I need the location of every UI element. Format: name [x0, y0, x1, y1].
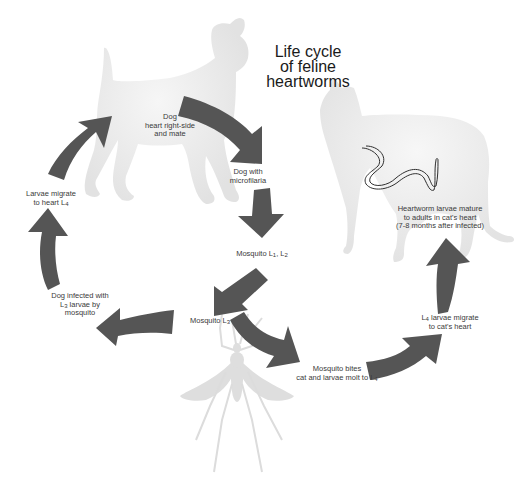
label-line: cat and larvae molt to L4	[282, 374, 392, 383]
arrow-microfilaria-to-mosquito-l1l2	[238, 188, 284, 238]
label-text: , L	[276, 249, 284, 258]
title-line-1: Life cycle	[258, 44, 358, 59]
label-line: (7-8 months after infected)	[385, 222, 495, 231]
label-text: cat and larvae molt to L	[296, 373, 374, 382]
arrow-dog-infected-to-larvae-migrate	[28, 208, 68, 290]
title-line-3: heartworms	[258, 74, 358, 89]
label-heartworm-mature: Heartworm larvae mature to adults in cat…	[385, 205, 495, 231]
title-line-2: of feline	[258, 59, 358, 74]
diagram-title: Life cycle of feline heartworms	[258, 44, 358, 89]
label-line: mosquito	[40, 309, 120, 318]
label-l4-migrate-cat: L4 larvae migrate to cat's heart	[405, 314, 495, 331]
label-line: to heart L4	[16, 199, 86, 208]
label-dog-microfilaria: Dog with microfilaria	[218, 168, 278, 185]
label-text: to heart L	[33, 198, 65, 207]
label-line: to cat's heart	[405, 323, 495, 332]
mosquito-silhouette-icon	[180, 314, 294, 472]
subscript: 4	[374, 376, 377, 382]
label-mosquito-bites: Mosquito bites cat and larvae molt to L4	[282, 365, 392, 382]
label-text: Mosquito L	[236, 249, 273, 258]
subscript: 4	[65, 201, 68, 207]
subscript: 3	[227, 319, 230, 325]
label-dog-heart: Dog heart right-side and mate	[130, 113, 210, 139]
label-mosquito-l3: Mosquito L3	[180, 317, 240, 326]
label-text: larvae migrate	[429, 313, 479, 322]
heartworm-lifecycle-diagram: Life cycle of feline heartworms Dog hear…	[0, 0, 527, 486]
label-mosquito-l1-l2: Mosquito L1, L2	[222, 250, 302, 259]
subscript: 2	[285, 252, 288, 258]
label-line: microfilaria	[218, 177, 278, 186]
label-text: Mosquito L	[190, 316, 227, 325]
label-larvae-migrate-dog: Larvae migrate to heart L4	[16, 190, 86, 207]
label-line: and mate	[130, 130, 210, 139]
label-dog-infected: Dog infected with L3 larvae by mosquito	[40, 292, 120, 318]
arrow-l1l2-to-l3	[214, 268, 268, 316]
